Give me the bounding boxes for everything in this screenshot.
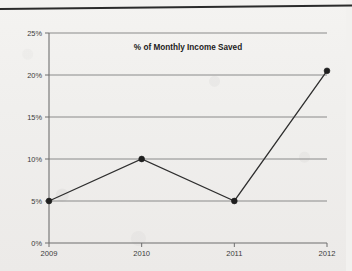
y-axis-ticks: 0%5%10%15%20%25%: [27, 29, 49, 248]
data-point-marker: [139, 156, 145, 162]
x-tick-label: 2012: [319, 249, 336, 258]
y-tick-label: 20%: [27, 71, 42, 80]
x-tick-label: 2010: [133, 249, 150, 258]
y-tick-label: 25%: [27, 29, 42, 38]
data-point-marker: [46, 198, 52, 204]
y-tick-label: 0%: [31, 239, 42, 248]
data-point-marker: [231, 198, 237, 204]
data-point-marker: [324, 68, 330, 74]
x-axis-ticks: 2009201020112012: [41, 243, 336, 258]
y-tick-label: 10%: [27, 155, 42, 164]
gridlines: [49, 33, 327, 201]
x-tick-label: 2011: [226, 249, 242, 258]
y-tick-label: 15%: [27, 113, 42, 122]
chart-title: % of Monthly Income Saved: [134, 43, 242, 52]
y-tick-label: 5%: [31, 197, 42, 206]
series-line-income-saved: [49, 71, 327, 201]
x-tick-label: 2009: [41, 249, 58, 258]
